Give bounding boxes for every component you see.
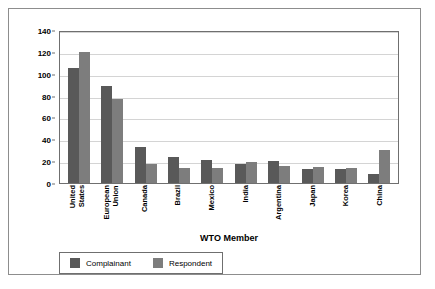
x-axis-label-cell: India [229,185,263,231]
chart-plot-area: Number of Complaints 020406080100120140 [59,31,399,184]
bar [313,167,324,183]
x-axis-label: European Union [103,185,120,220]
y-axis-tick-label: 100 [38,70,51,79]
x-axis-label: Korea [342,185,351,206]
legend-label: Complainant [86,259,131,268]
x-axis-label: Brazil [174,185,183,205]
bar-group [262,32,295,183]
x-axis-label: Canada [141,185,150,212]
chart-legend: ComplainantRespondent [59,252,223,274]
bar [68,68,79,183]
x-axis-label-cell: China [363,185,397,231]
y-axis-tick-mark [52,162,55,163]
y-axis-tick-label: 120 [38,48,51,57]
bar-group [129,32,162,183]
x-axis-title: WTO Member [59,233,399,243]
x-axis-label-cell: Canada [128,185,162,231]
x-axis-label-cell: Argentina [263,185,297,231]
y-axis-tick-mark [52,184,55,185]
y-axis-tick-mark [52,31,55,32]
bar [146,164,157,183]
bar [279,166,290,183]
bar-group [329,32,362,183]
x-axis-label: India [242,185,251,203]
y-axis-tick-label: 40 [42,136,51,145]
y-axis-tick-mark [52,52,55,53]
bar [235,164,246,183]
chart-frame: Number of Complaints 020406080100120140 … [8,8,421,275]
y-axis-tick-label: 140 [38,27,51,36]
x-axis-label: China [376,185,385,206]
bar-group [296,32,329,183]
bar-group [229,32,262,183]
x-axis-label: United States [69,185,86,208]
x-axis-label-cell: European Union [95,185,129,231]
y-axis-ticks: 020406080100120140 [29,31,55,184]
x-axis-label: Mexico [208,185,217,210]
plot-canvas [59,31,399,184]
x-axis-label-cell: Mexico [195,185,229,231]
bar [79,52,90,183]
bar [179,168,190,183]
bar-group [62,32,95,183]
legend-item[interactable]: Complainant [70,258,131,268]
bar [268,161,279,183]
y-axis-tick-label: 0 [47,180,51,189]
bar [379,150,390,183]
bar [246,162,257,183]
y-axis-tick-mark [52,118,55,119]
x-axis-label-cell: Korea [330,185,364,231]
x-axis-label: Argentina [275,185,284,220]
x-axis-label-cell: Brazil [162,185,196,231]
bar [346,168,357,183]
bar [335,169,346,183]
bar-group [363,32,396,183]
bar [212,168,223,183]
bar-group [196,32,229,183]
y-axis-tick-mark [52,74,55,75]
bar [168,157,179,183]
y-axis-tick-mark [52,96,55,97]
x-axis-label: Japan [309,185,318,207]
bar [101,86,112,183]
bar-group [95,32,128,183]
legend-label: Respondent [169,259,212,268]
bar [112,99,123,183]
bar [201,160,212,183]
bar-group [162,32,195,183]
y-axis-tick-label: 60 [42,114,51,123]
bar [302,169,313,183]
bar [368,174,379,183]
bar-groups [60,32,398,183]
legend-swatch-icon [153,258,163,268]
bar [135,147,146,183]
y-axis-tick-label: 20 [42,158,51,167]
x-axis-label-cell: United States [61,185,95,231]
y-axis-tick-label: 80 [42,92,51,101]
legend-item[interactable]: Respondent [153,258,212,268]
y-axis-tick-mark [52,140,55,141]
x-axis-label-cell: Japan [296,185,330,231]
x-axis-labels: United StatesEuropean UnionCanadaBrazilM… [59,185,399,231]
legend-swatch-icon [70,258,80,268]
